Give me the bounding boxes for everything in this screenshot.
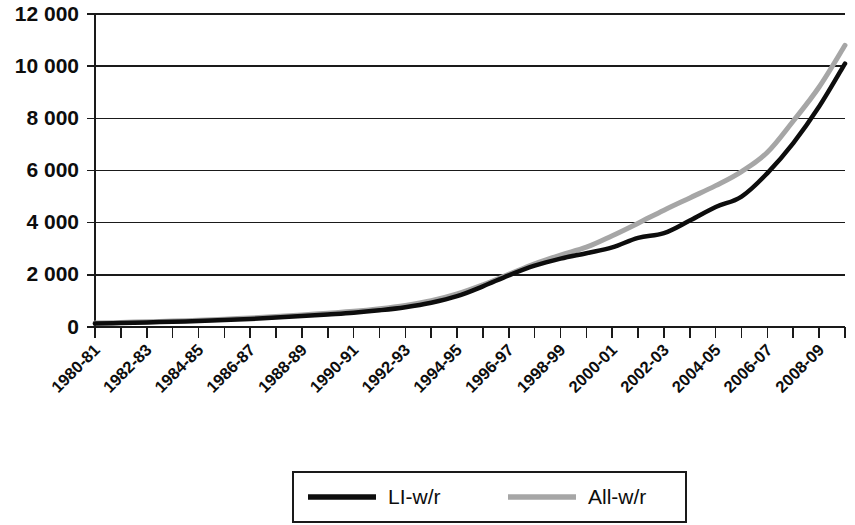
y-axis-tick-label: 2 000: [26, 262, 79, 285]
chart-legend: LI-w/r All-w/r: [293, 472, 686, 522]
y-axis-tick-label: 4 000: [26, 210, 79, 233]
chart-container: 02 0004 0006 0008 00010 00012 000 1980-8…: [0, 0, 855, 525]
y-axis-tick-label: 6 000: [26, 158, 79, 181]
y-axis-tick-label: 12 000: [15, 2, 79, 25]
y-axis-tick-label: 8 000: [26, 106, 79, 129]
line-chart: 02 0004 0006 0008 00010 00012 000 1980-8…: [0, 0, 855, 525]
legend-label-all-wr: All-w/r: [588, 485, 646, 508]
legend-label-li-wr: LI-w/r: [388, 485, 441, 508]
chart-background: [0, 0, 855, 525]
y-axis-tick-label: 10 000: [15, 54, 79, 77]
y-axis-tick-label: 0: [67, 315, 79, 338]
